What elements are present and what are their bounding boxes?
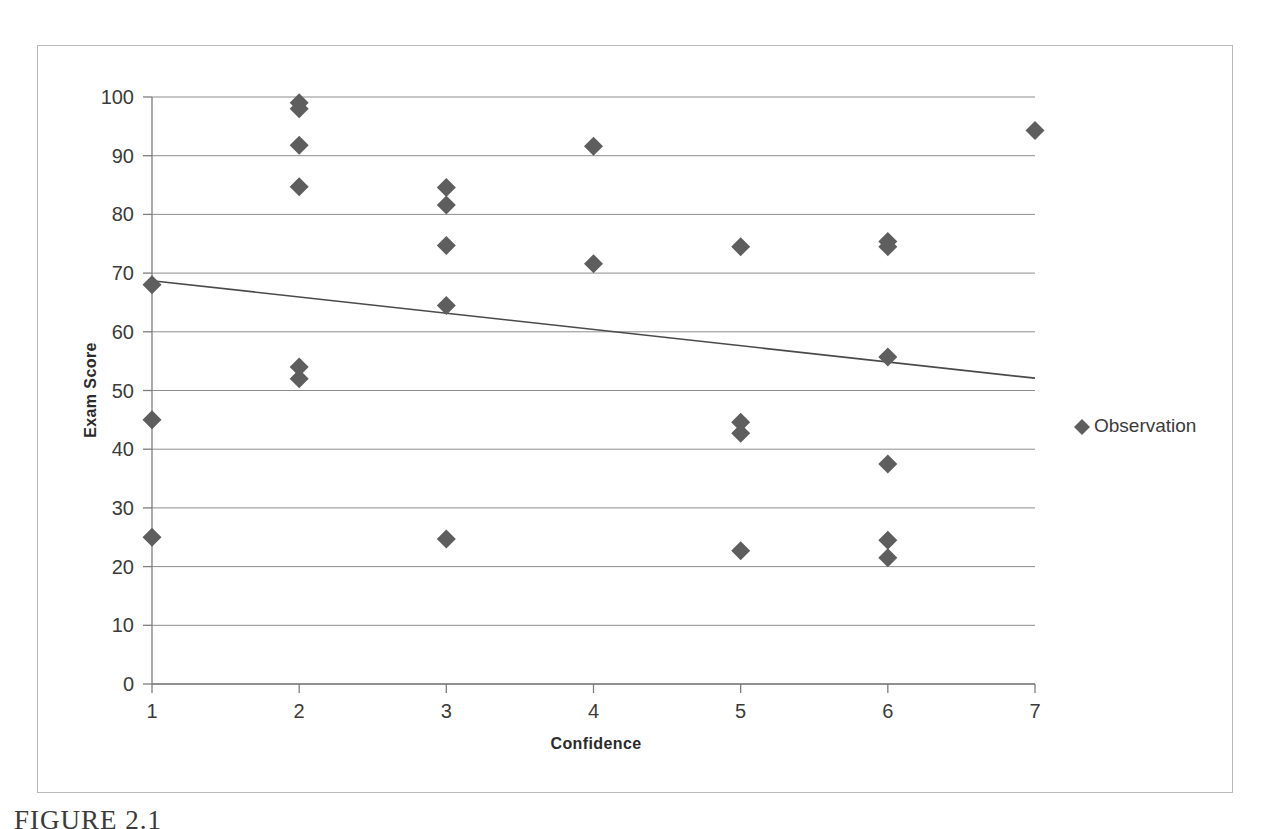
x-tick-label-3: 3	[441, 700, 452, 722]
x-tick-label-7: 7	[1029, 700, 1040, 722]
y-tick-label-60: 60	[112, 321, 134, 343]
data-point-0-11	[437, 236, 456, 255]
x-tick-labels: 1234567	[146, 700, 1040, 722]
y-tick-label-50: 50	[112, 380, 134, 402]
data-point-0-14	[584, 137, 603, 156]
y-tick-marks	[143, 97, 152, 684]
x-tick-label-1: 1	[146, 700, 157, 722]
legend: Observation	[1074, 415, 1196, 436]
y-tick-label-100: 100	[101, 86, 134, 108]
legend-label-0: Observation	[1094, 415, 1196, 436]
y-tick-label-10: 10	[112, 614, 134, 636]
y-tick-label-20: 20	[112, 556, 134, 578]
data-point-0-25	[878, 548, 897, 567]
figure-caption: FIGURE 2.1	[14, 805, 162, 829]
trendline	[152, 281, 1035, 378]
data-points	[143, 93, 1045, 567]
data-point-0-6	[290, 177, 309, 196]
data-point-0-1	[143, 410, 162, 429]
data-point-0-23	[878, 454, 897, 473]
y-axis-title: Exam Score	[82, 342, 99, 438]
gridlines	[152, 97, 1035, 684]
x-tick-marks	[152, 684, 1035, 693]
y-tick-label-0: 0	[123, 673, 134, 695]
data-point-0-26	[1026, 121, 1045, 140]
data-point-0-18	[731, 424, 750, 443]
data-point-0-24	[878, 531, 897, 550]
y-tick-label-30: 30	[112, 497, 134, 519]
y-tick-label-80: 80	[112, 203, 134, 225]
scatter-chart: 0102030405060708090100 1234567 Confidenc…	[0, 0, 1263, 829]
data-point-0-9	[437, 178, 456, 197]
y-tick-label-40: 40	[112, 438, 134, 460]
data-point-0-8	[290, 369, 309, 388]
y-tick-label-70: 70	[112, 262, 134, 284]
y-tick-label-90: 90	[112, 145, 134, 167]
x-tick-label-4: 4	[588, 700, 599, 722]
trendline-linear	[152, 281, 1035, 378]
data-point-0-10	[437, 196, 456, 215]
data-point-0-0	[143, 275, 162, 294]
data-point-0-13	[437, 530, 456, 549]
x-axis-title: Confidence	[550, 735, 641, 752]
data-point-0-16	[731, 237, 750, 256]
data-point-0-5	[290, 136, 309, 155]
data-point-0-2	[143, 528, 162, 547]
data-point-0-22	[878, 348, 897, 367]
x-tick-label-5: 5	[735, 700, 746, 722]
legend-marker-0	[1074, 419, 1090, 435]
data-point-0-15	[584, 254, 603, 273]
x-tick-label-6: 6	[882, 700, 893, 722]
x-tick-label-2: 2	[294, 700, 305, 722]
y-tick-labels: 0102030405060708090100	[101, 86, 134, 695]
data-point-0-19	[731, 541, 750, 560]
